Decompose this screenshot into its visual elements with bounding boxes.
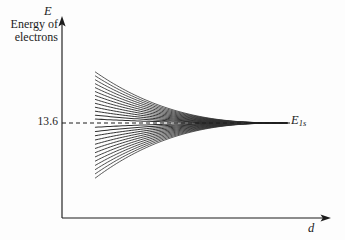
y-axis-symbol: E bbox=[44, 4, 52, 18]
y-axis-caption: Energy of electrons bbox=[0, 18, 58, 45]
y-axis-caption-line-2: electrons bbox=[0, 31, 58, 44]
energy-level-curve bbox=[95, 123, 286, 148]
energy-level-label-subscript: 1s bbox=[299, 118, 307, 128]
energy-band-curves bbox=[95, 72, 286, 178]
y-axis-tick-label: 13.6 bbox=[28, 115, 58, 128]
energy-band-figure: E Energy of electrons 13.6 E1s d bbox=[0, 0, 345, 240]
x-axis-symbol: d bbox=[308, 221, 314, 235]
y-axis-caption-line-1: Energy of bbox=[0, 18, 58, 31]
energy-level-label: E1s bbox=[291, 113, 306, 128]
energy-level-label-symbol: E bbox=[291, 113, 299, 127]
